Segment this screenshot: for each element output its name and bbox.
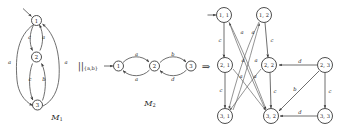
m2-label-3-2: d [171, 76, 175, 82]
m2-label-2-1: a [135, 76, 138, 82]
m2-state-1-label: 1 [117, 63, 120, 69]
operator-symbol: ||{a,b} [78, 61, 98, 72]
m2-name: M2 [143, 99, 156, 109]
m1-state-2-label: 2 [35, 54, 38, 60]
m1-label-2-3: c [29, 76, 32, 82]
product-label-22-31: a [253, 73, 256, 79]
product-label-23-22: d [298, 58, 302, 64]
m1-label-3-2: b [42, 76, 45, 82]
figure-canvas: 1 2 3 c a c b a a M1 ||{a,b} [0, 0, 355, 134]
m1-state-1-label: 1 [35, 18, 38, 24]
product-state-2-1-label: 2, 1 [220, 62, 230, 68]
product-state-3-1-label: 3, 1 [220, 113, 230, 119]
parallel-composition-operator: ||{a,b} [78, 61, 98, 72]
m1-label-3-1: a [64, 59, 67, 65]
product-label-21-32: a [239, 73, 242, 79]
m1-label-1-3: a [8, 59, 11, 65]
product-state-1-2-label: 1, 2 [259, 12, 269, 18]
product-automaton: 1, 1 1, 2 2, 1 2, 2 2, 3 3, 1 3, 2 3, 3 … [208, 8, 333, 124]
product-label-12-22: c [271, 37, 274, 43]
product-edge-22-32 [270, 73, 271, 109]
product-state-2-2-label: 2, 2 [264, 62, 274, 68]
machine-m2: 1 2 3 a a b d M2 [104, 51, 196, 108]
product-state-3-2-label: 3, 2 [266, 113, 276, 119]
m1-name: M1 [50, 113, 63, 123]
product-state-3-3-label: 3, 3 [320, 113, 330, 119]
m2-edge-1-2 [123, 57, 149, 63]
product-label-23-33: c [329, 88, 332, 94]
m1-label-1-2: c [28, 34, 31, 40]
m2-edge-2-3 [160, 57, 186, 63]
product-label-32-11: a [254, 57, 257, 63]
m1-label-2-1: a [42, 34, 45, 40]
product-label-33-32: d [298, 109, 302, 115]
product-state-2-3-label: 2, 3 [320, 62, 330, 68]
product-label-21-31: c [220, 87, 223, 93]
product-label-22-32: c [274, 88, 277, 94]
implies-symbol: ⇒ [202, 61, 211, 72]
product-edge-23-32 [279, 71, 319, 111]
m2-label-2-3: b [171, 51, 174, 57]
product-label-11-21: c [219, 37, 222, 43]
product-label-11-32: a [251, 29, 254, 35]
product-edge-21-32 [233, 69, 266, 110]
m1-edge-3-2 [42, 64, 46, 101]
automata-composition-figure: 1 2 3 c a c b a a M1 ||{a,b} [0, 0, 355, 134]
product-label-31-12: a [241, 57, 244, 63]
machine-m1: 1 2 3 c a c b a a M1 [8, 9, 68, 123]
m2-edge-3-2 [160, 70, 187, 76]
m1-initial-arrow [23, 9, 32, 17]
m2-state-2-label: 2 [153, 63, 156, 69]
product-state-1-1-label: 1, 1 [219, 12, 229, 18]
product-label-12-31: a [240, 29, 243, 35]
product-edge-32-11 [230, 23, 267, 111]
product-label-23-32: b [293, 86, 296, 92]
m2-edge-2-1 [123, 70, 150, 76]
m2-label-1-2: a [135, 51, 138, 57]
m1-state-3-label: 3 [36, 102, 40, 108]
product-edge-12-22 [265, 23, 268, 58]
m2-state-3-label: 3 [189, 63, 193, 69]
